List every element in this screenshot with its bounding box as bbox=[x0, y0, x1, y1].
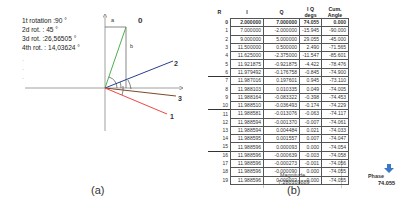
table-row: 611.979492-0.176758-0.845-74.900 bbox=[208, 68, 349, 76]
cell-q: 5.000000 bbox=[264, 35, 300, 43]
cell-i: 11.987016 bbox=[231, 77, 264, 85]
cell-cum-angle: -74.054 bbox=[322, 143, 349, 151]
table-row: 1611.988596-0.000639-0.003-74.058 bbox=[208, 151, 349, 159]
table-row: 711.9870160.1976010.945-73.110 bbox=[208, 77, 349, 85]
cell-cum-angle: -74.900 bbox=[322, 68, 349, 76]
panel-b-cordic-table: R I Q I Q degs Cum. Angle 02.0000007.000… bbox=[208, 0, 409, 209]
cell-i: 11.988596 bbox=[231, 151, 264, 159]
cell-q: -2.375000 bbox=[264, 52, 300, 60]
cell-cum-angle: -74.117 bbox=[322, 110, 349, 118]
caption-a: (a) bbox=[91, 184, 104, 196]
cell-i: 11.988594 bbox=[231, 126, 264, 134]
cordic-iteration-table: R I Q I Q degs Cum. Angle 02.0000007.000… bbox=[208, 6, 349, 185]
cell-cum-angle: -74.453 bbox=[322, 93, 349, 101]
cell-iq-degs: 0.945 bbox=[300, 77, 322, 85]
svg-text:b: b bbox=[130, 43, 133, 49]
cell-q: -0.001370 bbox=[264, 118, 300, 126]
cell-q: -2.000000 bbox=[264, 27, 300, 35]
caption-b: (b) bbox=[287, 184, 300, 196]
vector-0 bbox=[105, 27, 126, 88]
svg-text:a: a bbox=[111, 17, 115, 23]
cell-r: 7 bbox=[208, 77, 231, 85]
svg-text:0: 0 bbox=[138, 16, 143, 25]
table-row: 811.9881030.0103350.049-74.005 bbox=[208, 85, 349, 93]
phase-value: 74.055 bbox=[378, 180, 395, 186]
cell-i: 11.988596 bbox=[231, 143, 264, 151]
cell-q: -0.921875 bbox=[264, 60, 300, 68]
cell-iq-degs: -0.001 bbox=[300, 160, 322, 168]
cell-iq-degs: -0.174 bbox=[300, 101, 322, 109]
cell-cum-angle: -71.565 bbox=[322, 43, 349, 51]
table-row: 29.0000005.00000029.055-45.000 bbox=[208, 35, 349, 43]
table-row: 1711.988596-0.000273-0.001-74.056 bbox=[208, 160, 349, 168]
cell-iq-degs: -0.398 bbox=[300, 93, 322, 101]
cell-iq-degs: -0.003 bbox=[300, 151, 322, 159]
vector-2 bbox=[105, 61, 173, 88]
cell-cum-angle: -74.055 bbox=[322, 176, 349, 184]
panel-a-cordic-rotation-diagram: 1t rotation :90 ° 2d rot. : 45 ° 3d rot.… bbox=[0, 0, 205, 209]
cell-q: -0.036493 bbox=[264, 101, 300, 109]
cell-r: 0 bbox=[208, 19, 231, 27]
table-row: 311.5000000.5000002.490-71.565 bbox=[208, 43, 349, 51]
cell-i: 11.988164 bbox=[231, 93, 264, 101]
table-row: 411.625000-2.375000-11.547-85.601 bbox=[208, 52, 349, 60]
cell-cum-angle: -74.229 bbox=[322, 101, 349, 109]
cell-i: 11.625000 bbox=[231, 52, 264, 60]
cell-q: 0.001557 bbox=[264, 135, 300, 143]
cell-cum-angle: -74.005 bbox=[322, 85, 349, 93]
table-row: 1411.9885950.0015570.007-74.047 bbox=[208, 135, 349, 143]
cell-r: 13 bbox=[208, 126, 231, 134]
cell-r: 5 bbox=[208, 60, 231, 68]
table-row: 1811.988596-0.0000900.000-74.055 bbox=[208, 168, 349, 176]
cell-q: -0.176758 bbox=[264, 68, 300, 76]
cell-iq-degs: 74.055 bbox=[300, 19, 322, 27]
cell-cum-angle: -74.047 bbox=[322, 135, 349, 143]
table-row: 1311.9885940.0044840.021-74.033 bbox=[208, 126, 349, 134]
cell-q: 0.197601 bbox=[264, 77, 300, 85]
cell-q: 0.004484 bbox=[264, 126, 300, 134]
cell-r: 14 bbox=[208, 135, 231, 143]
table-row: 17.000000-2.000000-15.945-90.000 bbox=[208, 27, 349, 35]
header-i: I bbox=[231, 6, 264, 19]
cell-i: 11.500000 bbox=[231, 43, 264, 51]
cell-iq-degs: -0.845 bbox=[300, 68, 322, 76]
header-cum-angle: Cum. Angle bbox=[322, 6, 349, 19]
cell-i: 11.988596 bbox=[231, 168, 264, 176]
cell-i: 2.000000 bbox=[231, 19, 264, 27]
cell-i: 11.988581 bbox=[231, 110, 264, 118]
cell-cum-angle: -74.056 bbox=[322, 160, 349, 168]
table-row: 1011.988510-0.036493-0.174-74.229 bbox=[208, 101, 349, 109]
cell-cum-angle: -74.058 bbox=[322, 151, 349, 159]
svg-text:3: 3 bbox=[178, 95, 182, 102]
cell-r: 4 bbox=[208, 52, 231, 60]
cell-r: 11 bbox=[208, 110, 231, 118]
cell-q: -0.013076 bbox=[264, 110, 300, 118]
cell-r: 3 bbox=[208, 43, 231, 51]
cell-q: 0.010335 bbox=[264, 85, 300, 93]
cell-cum-angle: -73.110 bbox=[322, 77, 349, 85]
table-row: 02.0000007.00000074.0550.000 bbox=[208, 19, 349, 27]
cell-iq-degs: 29.055 bbox=[300, 35, 322, 43]
cell-i: 11.979492 bbox=[231, 68, 264, 76]
header-iq-degs: I Q degs bbox=[300, 6, 322, 19]
cell-i: 11.988510 bbox=[231, 101, 264, 109]
cell-iq-degs: 0.000 bbox=[300, 143, 322, 151]
cell-i: 11.921875 bbox=[231, 60, 264, 68]
cell-cum-angle: -85.601 bbox=[322, 52, 349, 60]
cell-iq-degs: 0.021 bbox=[300, 126, 322, 134]
table-header-row: R I Q I Q degs Cum. Angle bbox=[208, 6, 349, 19]
cell-i: 7.000000 bbox=[231, 27, 264, 35]
cell-cum-angle: -78.476 bbox=[322, 60, 349, 68]
arrow-down-icon bbox=[384, 164, 394, 173]
cell-cum-angle: -74.061 bbox=[322, 118, 349, 126]
cell-r: 6 bbox=[208, 68, 231, 76]
header-r: R bbox=[208, 6, 231, 19]
cell-r: 18 bbox=[208, 168, 231, 176]
cell-q: 7.000000 bbox=[264, 19, 300, 27]
svg-text:2: 2 bbox=[174, 60, 178, 67]
table-row: 1111.988581-0.013076-0.063-74.117 bbox=[208, 110, 349, 118]
cell-q: 0.500000 bbox=[264, 43, 300, 51]
table-row: 511.921875-0.921875-4.422-78.476 bbox=[208, 60, 349, 68]
cell-r: 8 bbox=[208, 85, 231, 93]
header-q: Q bbox=[264, 6, 300, 19]
